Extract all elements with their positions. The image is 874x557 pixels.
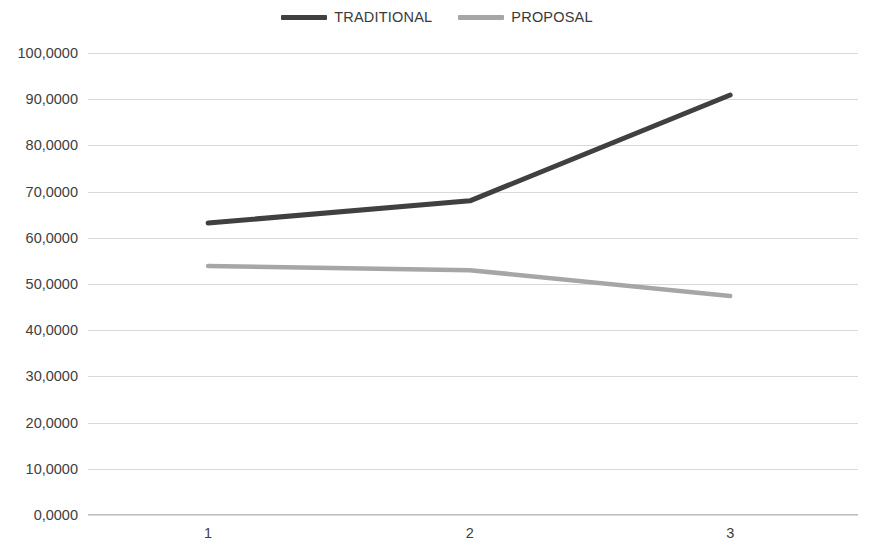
series-line-proposal[interactable] [208,266,730,296]
x-tick-label: 2 [466,525,474,541]
x-tick-label: 3 [726,525,734,541]
legend-label-proposal: PROPOSAL [511,9,592,25]
plot-area [88,53,858,515]
y-tick-label: 20,0000 [26,415,78,431]
x-tick-label: 1 [204,525,212,541]
y-tick-label: 70,0000 [26,184,78,200]
legend-entry-traditional[interactable]: TRADITIONAL [281,9,432,25]
y-tick-label: 80,0000 [26,137,78,153]
series-line-traditional[interactable] [208,95,730,223]
line-chart: TRADITIONAL PROPOSAL 100,000090,000080,0… [0,0,874,557]
y-axis: 100,000090,000080,000070,000060,000050,0… [0,53,78,515]
legend-swatch-traditional [281,15,327,20]
y-tick-label: 40,0000 [26,322,78,338]
legend-swatch-proposal [458,15,504,20]
y-tick-label: 50,0000 [26,276,78,292]
y-tick-label: 30,0000 [26,368,78,384]
x-axis: 123 [88,522,858,548]
y-tick-label: 100,0000 [18,45,78,61]
series-layer [88,53,858,515]
y-tick-label: 10,0000 [26,461,78,477]
y-tick-label: 0,0000 [34,507,78,523]
chart-legend: TRADITIONAL PROPOSAL [0,6,874,28]
legend-entry-proposal[interactable]: PROPOSAL [458,9,592,25]
legend-label-traditional: TRADITIONAL [334,9,432,25]
y-tick-label: 60,0000 [26,230,78,246]
y-tick-label: 90,0000 [26,91,78,107]
gridline [88,515,858,516]
